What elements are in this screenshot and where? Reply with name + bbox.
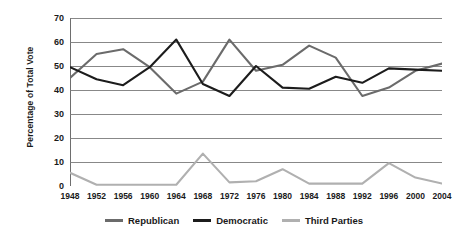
y-axis-tick-labels: 706050403020100 bbox=[34, 18, 64, 186]
x-axis-tick: 1984 bbox=[300, 192, 319, 201]
x-axis-tick: 1980 bbox=[273, 192, 292, 201]
plot-svg bbox=[70, 18, 442, 186]
legend-item[interactable]: Democratic bbox=[193, 216, 268, 226]
plot-area bbox=[70, 18, 442, 186]
x-axis-tick: 1988 bbox=[326, 192, 345, 201]
x-axis-tick: 1948 bbox=[61, 192, 80, 201]
y-axis-tick: 50 bbox=[36, 62, 64, 71]
y-axis-tick: 30 bbox=[36, 110, 64, 119]
legend-label: Democratic bbox=[216, 216, 268, 226]
legend-item[interactable]: Republican bbox=[105, 216, 179, 226]
x-axis-tick: 1968 bbox=[193, 192, 212, 201]
x-axis-tick: 1972 bbox=[220, 192, 239, 201]
x-axis-tick: 2004 bbox=[433, 192, 452, 201]
x-axis-tick-labels: 1948195219561960196419681972197619801984… bbox=[70, 192, 442, 208]
x-axis-tick: 1960 bbox=[140, 192, 159, 201]
legend-item[interactable]: Third Parties bbox=[282, 216, 363, 226]
legend-label: Republican bbox=[128, 216, 179, 226]
line-chart: Percentage of Total Vote 706050403020100… bbox=[0, 0, 468, 242]
series-line-republican bbox=[70, 40, 442, 96]
x-axis-tick: 1956 bbox=[114, 192, 133, 201]
legend-label: Third Parties bbox=[305, 216, 363, 226]
legend-swatch-icon bbox=[282, 219, 300, 222]
y-axis-tick: 0 bbox=[36, 182, 64, 191]
legend-swatch-icon bbox=[105, 219, 123, 222]
x-axis-tick: 1996 bbox=[379, 192, 398, 201]
x-axis-tick: 1992 bbox=[353, 192, 372, 201]
x-axis-tick: 1976 bbox=[247, 192, 266, 201]
x-axis-tick: 1952 bbox=[87, 192, 106, 201]
y-axis-tick: 60 bbox=[36, 38, 64, 47]
series-line-third-parties bbox=[70, 154, 442, 185]
y-axis-tick: 20 bbox=[36, 134, 64, 143]
x-axis-tick: 1964 bbox=[167, 192, 186, 201]
y-axis-tick: 40 bbox=[36, 86, 64, 95]
x-axis-tick: 2000 bbox=[406, 192, 425, 201]
legend-swatch-icon bbox=[193, 219, 211, 222]
y-axis-tick: 70 bbox=[36, 14, 64, 23]
chart-legend: RepublicanDemocraticThird Parties bbox=[0, 216, 468, 226]
y-axis-tick: 10 bbox=[36, 158, 64, 167]
